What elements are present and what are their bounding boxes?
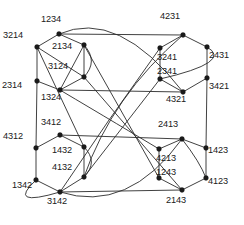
graph-node-2413[interactable] — [180, 137, 185, 142]
graph-node-2134[interactable] — [82, 43, 87, 48]
graph-node-3241[interactable] — [158, 46, 163, 51]
node-label-3142: 3142 — [47, 197, 67, 206]
graph-canvas — [0, 0, 244, 225]
node-label-1342: 1342 — [12, 181, 32, 190]
graph-node-4231[interactable] — [181, 33, 186, 38]
node-label-4123: 4123 — [208, 177, 228, 186]
arc-2134-3124 — [84, 45, 92, 77]
node-label-2134: 2134 — [52, 42, 72, 51]
node-label-1324: 1324 — [41, 93, 61, 102]
graph-node-4132[interactable] — [82, 175, 87, 180]
graph-edge-4231-3241 — [160, 35, 183, 48]
node-label-2314: 2314 — [2, 81, 22, 90]
graph-edge-2314-4312 — [36, 81, 37, 148]
graph-node-1432[interactable] — [82, 145, 87, 150]
graph-edge-4132-3142 — [60, 177, 84, 192]
node-label-3124: 3124 — [48, 62, 68, 71]
graph-node-3142[interactable] — [58, 190, 63, 195]
node-label-4213: 4213 — [156, 154, 176, 163]
node-label-3421: 3421 — [209, 82, 229, 91]
graph-node-2314[interactable] — [35, 79, 40, 84]
graph-edge-1342-3142 — [36, 180, 60, 192]
permutohedron-graph-figure: 1234321421343124231413244231324124312341… — [0, 0, 244, 225]
node-label-2143: 2143 — [166, 196, 186, 205]
graph-node-3124[interactable] — [82, 75, 87, 80]
graph-edge-3421-1423 — [206, 78, 207, 148]
graph-edge-2341-4132 — [84, 79, 160, 177]
node-label-1432: 1432 — [52, 146, 72, 155]
arc-2413-4123 — [182, 139, 206, 178]
node-label-2431: 2431 — [209, 51, 229, 60]
graph-node-3412[interactable] — [58, 133, 63, 138]
graph-edge-4123-2143 — [182, 178, 206, 190]
node-label-4312: 4312 — [3, 132, 23, 141]
graph-edge-1324-4321 — [60, 90, 183, 92]
graph-node-3214[interactable] — [35, 45, 40, 50]
graph-node-3421[interactable] — [205, 76, 210, 81]
graph-node-1234[interactable] — [57, 32, 62, 37]
node-label-3214: 3214 — [3, 31, 23, 40]
graph-node-4312[interactable] — [34, 146, 39, 151]
node-label-1423: 1423 — [208, 146, 228, 155]
node-label-2341: 2341 — [157, 67, 177, 76]
graph-edge-1243-2143 — [159, 178, 182, 190]
graph-edge-2341-4321 — [160, 79, 183, 92]
graph-edge-4231-2431 — [183, 35, 207, 47]
node-label-3241: 3241 — [157, 53, 177, 62]
node-label-3412: 3412 — [41, 118, 61, 127]
graph-node-2143[interactable] — [180, 188, 185, 193]
node-label-4321: 4321 — [166, 95, 186, 104]
node-label-1243: 1243 — [156, 168, 176, 177]
node-label-4231: 4231 — [160, 12, 180, 21]
graph-edge-3421-4321 — [183, 78, 207, 92]
node-label-2413: 2413 — [158, 120, 178, 129]
curved-edge-group — [25, 28, 214, 198]
graph-node-1342[interactable] — [34, 178, 39, 183]
graph-edge-1234-4231 — [59, 34, 183, 35]
node-label-1234: 1234 — [41, 15, 61, 24]
graph-node-2431[interactable] — [205, 45, 210, 50]
node-label-4132: 4132 — [52, 163, 72, 172]
graph-node-2341[interactable] — [158, 77, 163, 82]
graph-node-4213[interactable] — [157, 147, 162, 152]
